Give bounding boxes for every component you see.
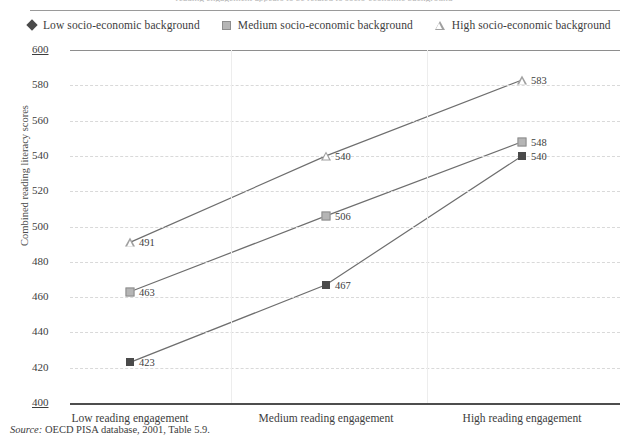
y-axis-title: Combined reading literacy scores bbox=[19, 56, 30, 296]
x-axis-label-0: Low reading engagement bbox=[72, 412, 189, 424]
data-point-diamond-high[interactable] bbox=[518, 152, 526, 160]
source-prefix: Source: bbox=[10, 424, 42, 435]
data-point-triangle-low[interactable] bbox=[125, 238, 135, 247]
gridline-520 bbox=[70, 191, 620, 192]
data-point-diamond-medium[interactable] bbox=[322, 281, 330, 289]
chart-container: Combined reading literacy scores 4004204… bbox=[0, 0, 628, 442]
data-point-triangle-high[interactable] bbox=[517, 76, 527, 85]
data-label-square-463: 463 bbox=[139, 286, 155, 297]
data-point-diamond-low[interactable] bbox=[126, 358, 134, 366]
gridline-440 bbox=[70, 332, 620, 333]
category-separator-1 bbox=[231, 50, 232, 403]
data-point-square-medium[interactable] bbox=[322, 211, 331, 220]
gridline-600 bbox=[70, 50, 620, 51]
y-tick-label-420: 420 bbox=[32, 361, 64, 373]
gridline-500 bbox=[70, 227, 620, 228]
data-label-diamond-467: 467 bbox=[335, 279, 351, 290]
x-axis-label-2: High reading engagement bbox=[463, 412, 582, 424]
x-axis-label-1: Medium reading engagement bbox=[259, 412, 394, 424]
y-tick-label-460: 460 bbox=[32, 290, 64, 302]
data-label-diamond-540: 540 bbox=[531, 150, 547, 161]
y-tick-label-600: 600 bbox=[32, 43, 64, 55]
data-label-square-506: 506 bbox=[335, 210, 351, 221]
y-tick-label-520: 520 bbox=[32, 184, 64, 196]
data-point-square-low[interactable] bbox=[126, 287, 135, 296]
y-tick-label-480: 480 bbox=[32, 255, 64, 267]
y-tick-label-560: 560 bbox=[32, 114, 64, 126]
source-text: OECD PISA database, 2001, Table 5.9. bbox=[45, 424, 210, 435]
y-tick-label-580: 580 bbox=[32, 78, 64, 90]
data-point-triangle-medium[interactable] bbox=[321, 151, 331, 160]
category-separator-2 bbox=[427, 50, 428, 403]
data-label-diamond-423: 423 bbox=[139, 357, 155, 368]
gridline-400 bbox=[70, 403, 620, 405]
y-tick-label-540: 540 bbox=[32, 149, 64, 161]
y-tick-label-400: 400 bbox=[32, 396, 64, 408]
gridline-560 bbox=[70, 121, 620, 122]
data-label-square-548: 548 bbox=[531, 136, 547, 147]
plot-area: 4004204404604805005205405605806004234675… bbox=[70, 50, 620, 403]
source-note: Source: OECD PISA database, 2001, Table … bbox=[10, 424, 210, 435]
y-tick-label-440: 440 bbox=[32, 325, 64, 337]
data-label-triangle-540: 540 bbox=[335, 150, 351, 161]
data-label-triangle-491: 491 bbox=[139, 237, 155, 248]
data-label-triangle-583: 583 bbox=[531, 75, 547, 86]
gridline-480 bbox=[70, 262, 620, 263]
data-point-square-high[interactable] bbox=[518, 137, 527, 146]
y-tick-label-500: 500 bbox=[32, 220, 64, 232]
